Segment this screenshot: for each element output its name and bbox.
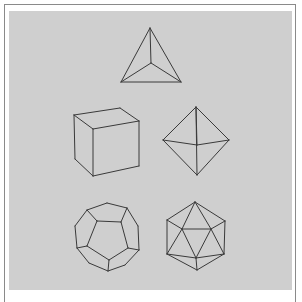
cube-edge bbox=[93, 121, 139, 129]
icosahedron-edge bbox=[167, 229, 182, 254]
solid-cube bbox=[74, 108, 139, 176]
octahedron-edge bbox=[163, 140, 197, 145]
tetrahedron-edge bbox=[121, 63, 151, 82]
dodecahedron-edge bbox=[87, 246, 109, 260]
icosahedron-edge bbox=[211, 229, 224, 254]
dodecahedron-edge bbox=[89, 263, 108, 271]
dodecahedron-edge bbox=[107, 203, 127, 208]
cube-edge bbox=[75, 159, 93, 176]
dodecahedron-edge bbox=[125, 250, 139, 265]
dodecahedron-edge bbox=[138, 226, 139, 250]
cube-edge bbox=[120, 108, 139, 121]
platonic-solids-figure bbox=[0, 0, 302, 302]
icosahedron-edge bbox=[195, 202, 225, 221]
cube-edge bbox=[74, 115, 75, 159]
icosahedron-edge bbox=[211, 221, 225, 229]
dodecahedron-edge bbox=[121, 222, 128, 248]
solid-octahedron bbox=[163, 107, 229, 175]
dodecahedron-edge bbox=[75, 210, 87, 226]
dodecahedron-edge bbox=[87, 210, 97, 221]
dodecahedron-edge bbox=[97, 221, 121, 222]
tetrahedron-edge bbox=[150, 28, 181, 82]
octahedron-edge bbox=[196, 107, 197, 175]
solid-icosahedron bbox=[167, 202, 225, 270]
tetrahedron-edge bbox=[151, 63, 181, 82]
dodecahedron-edge bbox=[87, 203, 107, 210]
dodecahedron-edge bbox=[75, 226, 77, 248]
dodecahedron-edge bbox=[77, 246, 87, 248]
octahedron-edge bbox=[163, 140, 197, 175]
octahedron-edge bbox=[197, 140, 229, 175]
octahedron-edge bbox=[197, 140, 229, 145]
dodecahedron-edge bbox=[77, 248, 89, 263]
solid-dodecahedron bbox=[75, 203, 139, 271]
icosahedron-edge bbox=[224, 221, 225, 254]
octahedron-edge bbox=[163, 107, 196, 140]
tetrahedron-edge bbox=[121, 28, 150, 82]
icosahedron-edge bbox=[196, 229, 211, 258]
icosahedron-edge bbox=[182, 229, 196, 258]
icosahedron-edge bbox=[195, 202, 211, 229]
dodecahedron-edge bbox=[109, 248, 128, 260]
cube-edge bbox=[74, 115, 93, 129]
icosahedron-edge bbox=[167, 220, 182, 229]
octahedron-edge bbox=[196, 107, 229, 140]
dodecahedron-edge bbox=[87, 221, 97, 246]
solid-tetrahedron bbox=[121, 28, 181, 82]
dodecahedron-edge bbox=[127, 208, 138, 226]
tetrahedron-edge bbox=[150, 28, 151, 63]
cube-edge bbox=[93, 166, 139, 176]
cube-edge bbox=[74, 108, 120, 115]
dodecahedron-edge bbox=[121, 208, 127, 222]
dodecahedron-edge bbox=[108, 265, 125, 271]
dodecahedron-edge bbox=[108, 260, 109, 271]
dodecahedron-edge bbox=[128, 248, 139, 250]
icosahedron-edge bbox=[196, 258, 197, 270]
